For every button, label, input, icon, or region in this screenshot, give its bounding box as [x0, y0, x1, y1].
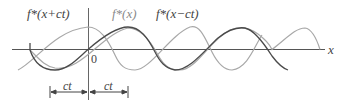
label-x-axis: x: [328, 43, 334, 56]
label-wave-left: f*(x+ct): [27, 7, 70, 20]
label-dim-left: ct: [63, 80, 72, 92]
wave-center-curve: [30, 27, 288, 70]
label-wave-right: f*(x−ct): [156, 7, 199, 20]
label-dim-right: ct: [104, 80, 113, 92]
traveling-wave-diagram: f*(x+ct) f*(x) f*(x−ct) x 0 ct ct: [0, 0, 347, 106]
wave-right-curve: [30, 28, 320, 70]
label-wave-center: f*(x): [112, 7, 137, 20]
label-origin: 0: [91, 53, 97, 65]
